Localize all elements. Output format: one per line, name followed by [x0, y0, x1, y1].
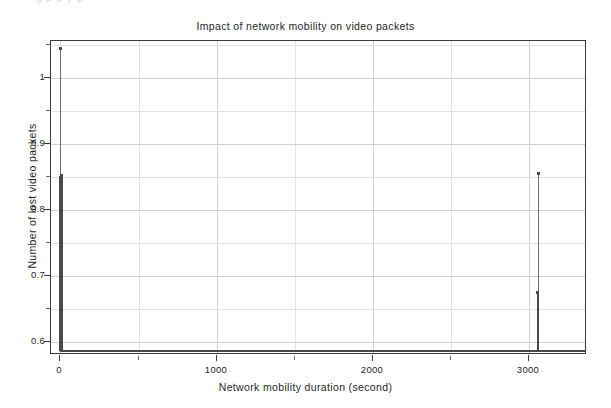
- x-tick-mark: [216, 355, 217, 361]
- series-spike: [537, 293, 539, 351]
- series-spike: [59, 176, 61, 351]
- cropped-header-text: g p p y p: [36, 0, 84, 3]
- series-baseline: [60, 350, 586, 352]
- series-marker: [537, 172, 540, 175]
- series-baseline-shadow: [60, 353, 586, 354]
- y-tick-mark-minor: [46, 242, 50, 243]
- y-tick-label: 0.7: [5, 269, 45, 280]
- series-layer: [51, 41, 586, 354]
- x-axis-title: Network mobility duration (second): [0, 381, 611, 393]
- x-tick-label: 0: [29, 364, 89, 375]
- x-tick-mark-minor: [138, 356, 139, 360]
- cropped-header-strip: g p p y p: [0, 0, 611, 10]
- x-tick-mark: [372, 355, 373, 361]
- x-tick-label: 2000: [342, 364, 402, 375]
- series-marker: [59, 47, 62, 50]
- y-tick-mark-minor: [46, 44, 50, 45]
- x-tick-mark: [59, 355, 60, 361]
- y-tick-label: 0.6: [5, 335, 45, 346]
- x-tick-label: 1000: [186, 364, 246, 375]
- chart-title: Impact of network mobility on video pack…: [0, 20, 611, 32]
- x-tick-mark: [528, 355, 529, 361]
- x-tick-mark-minor: [294, 356, 295, 360]
- x-tick-mark-minor: [450, 356, 451, 360]
- x-tick-label: 3000: [498, 364, 558, 375]
- plot-area: [50, 40, 586, 354]
- y-tick-label: 1: [5, 71, 45, 82]
- chart-figure: g p p y p Impact of network mobility on …: [0, 0, 611, 408]
- y-tick-label: 0.8: [5, 203, 45, 214]
- y-tick-label: 0.9: [5, 137, 45, 148]
- y-tick-mark-minor: [46, 176, 50, 177]
- y-tick-mark-minor: [46, 308, 50, 309]
- y-tick-mark-minor: [46, 110, 50, 111]
- series-marker: [536, 291, 539, 294]
